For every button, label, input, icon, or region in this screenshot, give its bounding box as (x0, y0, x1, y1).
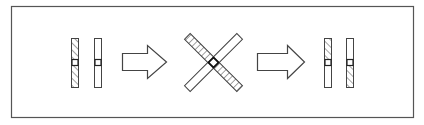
pivot-icon (347, 60, 353, 66)
pivot-icon (95, 60, 101, 66)
pivot-icon (72, 60, 78, 66)
step-1-separated-bars (72, 39, 102, 88)
crossover-diagram (0, 0, 424, 125)
arrow-right-icon (123, 46, 167, 79)
arrow-right-icon (258, 46, 305, 79)
step-3-recombined-bars (325, 39, 354, 88)
bar-hatched (72, 39, 79, 88)
step-2-crossed-bars (185, 34, 243, 92)
pivot-icon (325, 60, 331, 66)
bar-hatched-top (325, 39, 332, 88)
bar-hatched-bottom (347, 39, 354, 88)
bar-plain (95, 39, 102, 88)
